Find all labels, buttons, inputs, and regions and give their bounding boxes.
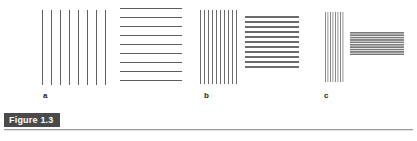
- caption-divider-rule-shadow: [4, 130, 413, 131]
- panel-b-vertical-grating: [200, 10, 240, 84]
- figure-illustration: a b c Figure 1.3: [0, 0, 417, 141]
- panel-label-c: c: [324, 92, 328, 100]
- panel-label-a: a: [43, 92, 47, 100]
- panel-b-horizontal-grating: [245, 16, 299, 70]
- panel-c-horizontal-grating: [350, 32, 404, 56]
- panel-a-horizontal-grating: [120, 8, 182, 89]
- panel-label-b: b: [204, 92, 209, 100]
- panel-a-vertical-grating: [42, 10, 108, 85]
- panel-c-vertical-grating: [325, 12, 345, 82]
- figure-caption-band: Figure 1.3: [0, 113, 417, 141]
- figure-number-badge: Figure 1.3: [4, 113, 60, 127]
